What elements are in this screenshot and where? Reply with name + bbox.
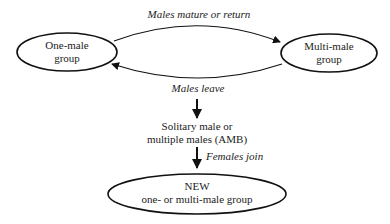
node-label: multiple males (AMB)	[147, 133, 248, 146]
node-solitary-males: Solitary male or multiple males (AMB)	[147, 120, 248, 146]
edge-label-leave: Males leave	[171, 82, 225, 94]
node-label: one- or multi-male group	[142, 193, 253, 205]
arrow-right-icon	[114, 26, 280, 42]
node-label: Multi-male	[304, 40, 354, 52]
arrow-left-icon	[112, 64, 282, 78]
edge-females-join: Females join	[197, 147, 264, 168]
node-label: group	[54, 52, 80, 64]
node-label: One-male	[45, 39, 88, 51]
node-one-male-group: One-male group	[17, 33, 117, 71]
edge-label-mature: Males mature or return	[147, 8, 251, 20]
edge-males-leave: Males leave	[112, 64, 282, 94]
node-label: NEW	[184, 180, 210, 192]
node-label: group	[316, 53, 342, 65]
diagram-canvas: Males mature or return Males leave Femal…	[0, 0, 390, 224]
edge-label-join: Females join	[205, 150, 264, 162]
node-new-group: NEW one- or multi-male group	[108, 174, 286, 214]
node-label: Solitary male or	[162, 120, 233, 132]
edge-males-mature-or-return: Males mature or return	[114, 8, 280, 42]
node-multi-male-group: Multi-male group	[281, 34, 377, 72]
